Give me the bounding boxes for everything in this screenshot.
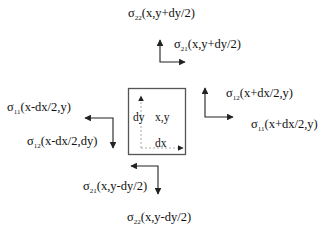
label-s21-bottom: σ21(x,y-dy/2) <box>83 179 147 195</box>
dx-label: dx <box>155 137 167 149</box>
label-s11-left: σ11(x-dx/2,y) <box>7 100 71 116</box>
label-s11-right: σ11(x+dx/2,y) <box>251 117 318 133</box>
label-s22-bottom: σ22(x,y-dy/2) <box>127 210 191 226</box>
dy-label: dy <box>133 111 145 124</box>
label-s12-right: σ12(x+dx/2,y) <box>226 86 293 102</box>
label-s12-left: σ12(x-dx/2,dy) <box>27 134 97 150</box>
diagram-svg: dy x,y dx σ22(x,y+dy/2) σ21(x,y+dy/2) σ1… <box>0 0 331 235</box>
label-s22-top: σ22(x,y+dy/2) <box>128 6 195 22</box>
stress-element-diagram: dy x,y dx σ22(x,y+dy/2) σ21(x,y+dy/2) σ1… <box>0 0 331 235</box>
label-s21-top: σ21(x,y+dy/2) <box>174 37 241 53</box>
center-label: x,y <box>155 111 170 124</box>
